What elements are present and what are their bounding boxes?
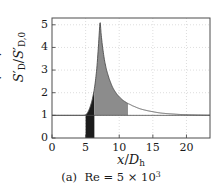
caption-mantissa: 5 bbox=[117, 170, 124, 184]
caption-equals: = bbox=[104, 170, 114, 184]
caption-label: (a) bbox=[61, 170, 77, 184]
y-axis-den-subscript: D,0 bbox=[17, 32, 27, 47]
x-axis-den-subscript: h bbox=[139, 158, 145, 168]
y-axis-den-symbol: S bbox=[10, 50, 28, 59]
y-tick-label: 0 bbox=[32, 131, 48, 144]
y-tick-label: 5 bbox=[32, 18, 48, 31]
y-axis-label: S′D/S′D,0 bbox=[10, 7, 28, 107]
x-axis-label: x/Dh bbox=[52, 152, 210, 168]
caption-symbol: Re bbox=[84, 170, 99, 184]
x-axis-den-symbol: D bbox=[129, 152, 139, 167]
y-tick-label: 1 bbox=[32, 108, 48, 121]
y-axis-num-subscript: D bbox=[17, 63, 27, 70]
figure-caption: (a) Re = 5 × 103 bbox=[0, 170, 222, 184]
y-tick-label: 3 bbox=[32, 63, 48, 76]
figure-panel: 05101520 012345 S′D/S′D,0 x/Dh (a) Re = … bbox=[0, 0, 222, 193]
y-tick-label: 4 bbox=[32, 40, 48, 53]
y-axis-slash: / bbox=[11, 59, 26, 63]
caption-times: × bbox=[128, 170, 138, 184]
y-axis-num-symbol: S bbox=[10, 73, 28, 82]
caption-exponent: 3 bbox=[156, 170, 161, 179]
caption-base: 10 bbox=[141, 170, 156, 184]
y-tick-label: 2 bbox=[32, 86, 48, 99]
